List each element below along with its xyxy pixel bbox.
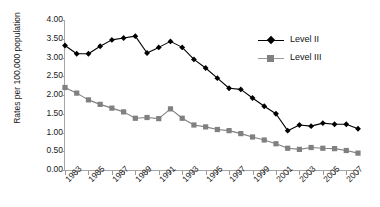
data-point-diamond-icon (86, 51, 92, 57)
data-point-square-icon (168, 106, 173, 111)
data-point-diamond-icon (168, 38, 174, 44)
data-point-square-icon (285, 146, 290, 151)
data-point-diamond-icon (297, 122, 303, 128)
data-point-square-icon (62, 85, 67, 90)
data-point-diamond-icon (332, 121, 338, 127)
data-point-square-icon (98, 102, 103, 107)
data-point-square-icon (309, 145, 314, 150)
legend-label-level-ii: Level II (290, 34, 319, 44)
data-point-square-icon (144, 115, 149, 120)
legend-label-level-iii: Level III (290, 52, 322, 62)
data-point-square-icon (86, 97, 91, 102)
legend-item-level-ii[interactable]: Level II (258, 33, 342, 49)
data-point-square-icon (215, 127, 220, 132)
data-point-square-icon (250, 134, 255, 139)
data-point-square-icon (320, 146, 325, 151)
data-point-square-icon (74, 91, 79, 96)
data-point-square-icon (238, 131, 243, 136)
series-level-iii (62, 85, 360, 156)
data-point-square-icon (203, 124, 208, 129)
data-point-square-icon (191, 122, 196, 127)
data-point-square-icon (109, 106, 114, 111)
series-plot-area (0, 0, 380, 207)
legend-diamond-marker-icon (267, 36, 275, 44)
data-point-square-icon (297, 147, 302, 152)
data-point-diamond-icon (343, 121, 349, 127)
data-point-square-icon (344, 148, 349, 153)
data-point-diamond-icon (97, 43, 103, 49)
series-line (65, 88, 358, 154)
data-point-diamond-icon (355, 126, 361, 132)
data-point-square-icon (226, 128, 231, 133)
data-point-diamond-icon (320, 120, 326, 126)
chart-legend: Level II Level III (258, 33, 342, 69)
data-point-square-icon (121, 109, 126, 114)
data-point-square-icon (355, 151, 360, 156)
data-point-diamond-icon (121, 35, 127, 41)
data-point-square-icon (156, 116, 161, 121)
data-point-diamond-icon (156, 44, 162, 50)
data-point-square-icon (262, 137, 267, 142)
line-chart: Rates per 100,000 population 0.000.501.0… (0, 0, 380, 207)
data-point-square-icon (273, 141, 278, 146)
legend-item-level-iii[interactable]: Level III (258, 51, 342, 67)
data-point-diamond-icon (109, 37, 115, 43)
data-point-square-icon (133, 116, 138, 121)
legend-square-marker-icon (267, 55, 274, 62)
data-point-square-icon (180, 116, 185, 121)
data-point-diamond-icon (308, 123, 314, 129)
data-point-square-icon (332, 146, 337, 151)
